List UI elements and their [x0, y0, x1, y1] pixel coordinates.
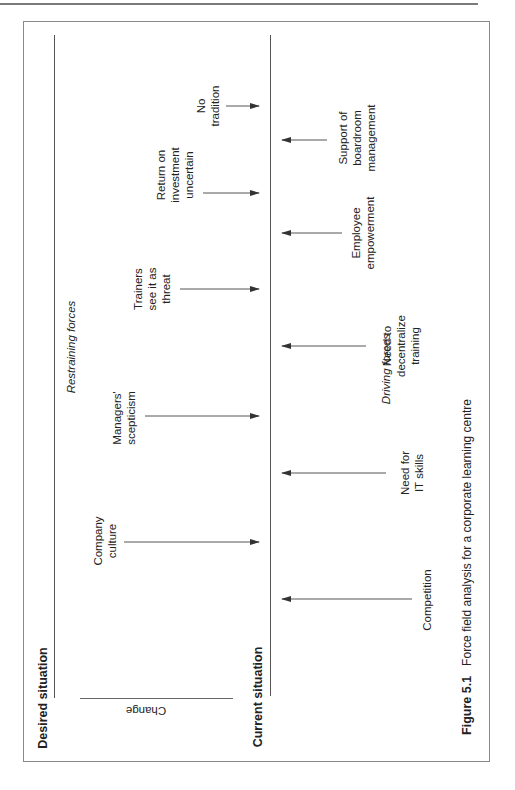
driving-arrows	[282, 140, 412, 599]
caption-text: Force field analysis for a corporate lea…	[460, 399, 474, 666]
figure-number: Figure 5.1	[460, 676, 474, 735]
restraining-arrows	[124, 106, 259, 542]
figure-caption: Figure 5.1 Force field analysis for a co…	[460, 399, 474, 735]
force-arrows	[0, 0, 515, 790]
